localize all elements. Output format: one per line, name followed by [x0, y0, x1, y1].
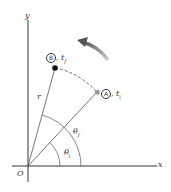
- x-axis-label: x: [158, 161, 163, 169]
- origin-label: O: [17, 170, 24, 178]
- point-a-label: A, ti: [101, 89, 121, 100]
- diagram-svg: [0, 0, 171, 192]
- theta-f-arc: [42, 115, 81, 166]
- radius-label: r: [37, 93, 41, 101]
- point-a: [95, 90, 100, 95]
- point-b-label: B, tf: [46, 53, 66, 64]
- point-a-time-sub: i: [119, 94, 121, 100]
- theta-i-label: θi: [64, 149, 70, 159]
- theta-i-arc: [50, 143, 60, 166]
- theta-f-label: θf: [73, 128, 80, 138]
- rotation-arrowhead-icon: [77, 37, 88, 47]
- point-b-time-sub: f: [64, 58, 66, 64]
- motion-path: [55, 68, 97, 92]
- rotation-arrow-icon: [82, 42, 108, 60]
- point-b: [52, 65, 58, 71]
- point-a-marker: A: [101, 89, 111, 99]
- diagram-canvas: y x O B, tf A, ti r θf θi: [0, 0, 171, 192]
- point-b-marker: B: [46, 53, 56, 63]
- y-axis-label: y: [25, 12, 30, 20]
